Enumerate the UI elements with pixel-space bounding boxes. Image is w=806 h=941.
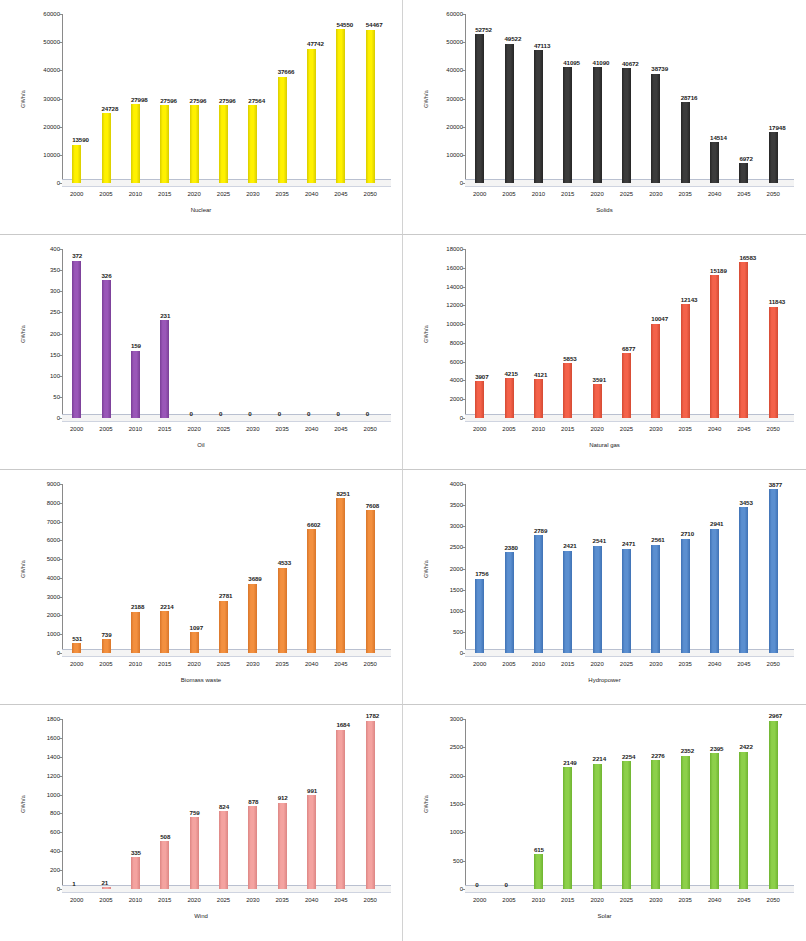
bar[interactable]: 991 [307,795,316,889]
bar[interactable]: 2789 [534,535,543,653]
bar-item[interactable]: 2421 [553,484,582,653]
bar[interactable]: 2710 [681,539,690,653]
bar[interactable]: 16583 [739,262,748,418]
bar-item[interactable]: 2710 [671,484,700,653]
bar-item[interactable]: 3877 [759,484,788,653]
bar[interactable]: 6972 [739,163,748,183]
bar[interactable]: 38739 [651,74,660,183]
bar-item[interactable]: 0 [268,249,297,418]
bar[interactable]: 54467 [366,30,375,183]
bar[interactable]: 27564 [248,105,257,183]
bar-item[interactable]: 37666 [268,14,297,183]
bar-item[interactable]: 2380 [494,484,523,653]
bar-item[interactable]: 1756 [465,484,494,653]
bar-item[interactable]: 4121 [524,249,553,418]
bar-item[interactable]: 52752 [465,14,494,183]
bar[interactable]: 6877 [622,353,631,418]
bar[interactable]: 912 [278,803,287,889]
bar[interactable]: 7608 [366,510,375,653]
bar-item[interactable]: 27596 [209,14,238,183]
bar-item[interactable]: 2541 [582,484,611,653]
bar-item[interactable]: 6877 [612,249,641,418]
bar-item[interactable]: 2781 [209,484,238,653]
bar-item[interactable]: 326 [91,249,120,418]
bar[interactable]: 231 [160,320,169,418]
bar[interactable]: 615 [534,854,543,889]
bar-item[interactable]: 878 [238,719,267,889]
bar[interactable]: 2471 [622,549,631,653]
bar-item[interactable]: 2214 [582,719,611,889]
bar-item[interactable]: 6972 [729,14,758,183]
bar-item[interactable]: 3689 [238,484,267,653]
bar-item[interactable]: 4533 [268,484,297,653]
bar[interactable]: 2395 [710,753,719,889]
bar-item[interactable]: 41090 [582,14,611,183]
bar-item[interactable]: 0 [209,249,238,418]
bar[interactable]: 27596 [219,105,228,183]
bar-item[interactable]: 2188 [121,484,150,653]
bar[interactable]: 4121 [534,379,543,418]
bar[interactable]: 2276 [651,760,660,889]
bar[interactable]: 37666 [278,77,287,183]
bar[interactable]: 10047 [651,324,660,418]
bar[interactable]: 5853 [563,363,572,418]
bar-item[interactable]: 16583 [729,249,758,418]
bar-item[interactable]: 2214 [150,484,179,653]
bar[interactable]: 3453 [739,507,748,653]
bar[interactable]: 1684 [336,730,345,889]
bar[interactable]: 3689 [248,584,257,653]
bar-item[interactable]: 1684 [326,719,355,889]
bar[interactable]: 159 [131,351,140,418]
bar-item[interactable]: 739 [91,484,120,653]
bar-item[interactable]: 2967 [759,719,788,889]
bar[interactable]: 15189 [710,275,719,418]
bar[interactable]: 2967 [769,721,778,889]
bar[interactable]: 1756 [475,579,484,653]
bar-item[interactable]: 6602 [297,484,326,653]
bar[interactable]: 6602 [307,529,316,653]
bar-item[interactable]: 2941 [700,484,729,653]
bar-item[interactable]: 2149 [553,719,582,889]
bar[interactable]: 824 [219,811,228,889]
bar-item[interactable]: 5853 [553,249,582,418]
bar[interactable]: 11843 [769,307,778,418]
bar-item[interactable]: 1 [62,719,91,889]
bar[interactable]: 21 [102,887,111,889]
bar-item[interactable]: 21 [91,719,120,889]
bar[interactable]: 52752 [475,34,484,183]
bar-item[interactable]: 159 [121,249,150,418]
bar[interactable]: 2214 [160,611,169,653]
bar[interactable]: 508 [160,841,169,889]
bar[interactable]: 4215 [505,378,514,418]
bar-item[interactable]: 0 [326,249,355,418]
bar-item[interactable]: 12143 [671,249,700,418]
bar[interactable]: 28716 [681,102,690,183]
bar-item[interactable]: 11843 [759,249,788,418]
bar[interactable]: 2781 [219,601,228,653]
bar[interactable]: 2421 [563,551,572,653]
bar[interactable]: 2561 [651,545,660,653]
bar-item[interactable]: 2422 [729,719,758,889]
bar[interactable]: 1782 [366,721,375,889]
bar[interactable]: 739 [102,639,111,653]
bar-item[interactable]: 231 [150,249,179,418]
bar[interactable]: 2149 [563,767,572,889]
bar-item[interactable]: 2276 [641,719,670,889]
bar[interactable]: 2214 [593,764,602,889]
bar-item[interactable]: 27596 [179,14,208,183]
bar-item[interactable]: 2471 [612,484,641,653]
bar[interactable]: 27596 [160,105,169,183]
bar-item[interactable]: 0 [494,719,523,889]
bar[interactable]: 878 [248,806,257,889]
bar[interactable]: 2422 [739,752,748,889]
bar-item[interactable]: 372 [62,249,91,418]
bar-item[interactable]: 0 [179,249,208,418]
bar[interactable]: 17948 [769,132,778,183]
bar-item[interactable]: 615 [524,719,553,889]
bar[interactable]: 335 [131,857,140,889]
bar[interactable]: 41090 [593,67,602,183]
bar[interactable]: 2541 [593,546,602,653]
bar[interactable]: 12143 [681,304,690,418]
bar[interactable]: 3907 [475,381,484,418]
bar-item[interactable]: 0 [356,249,385,418]
